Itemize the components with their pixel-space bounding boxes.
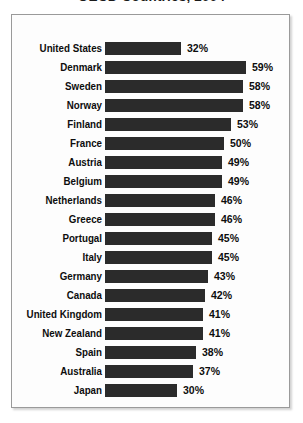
bar-value-label: 30% — [183, 381, 204, 400]
bar-row: France50% — [12, 134, 291, 153]
bar-value-label: 37% — [199, 362, 220, 381]
bar — [105, 118, 231, 131]
bar-row: Japan30% — [12, 381, 291, 400]
category-label: Portugal — [18, 229, 102, 248]
bar — [105, 194, 215, 207]
bar-row: Finland53% — [12, 115, 291, 134]
bar — [105, 137, 224, 150]
category-label: Greece — [18, 210, 102, 229]
bar — [105, 175, 222, 188]
category-label: Italy — [18, 248, 102, 267]
bar-row: Portugal45% — [12, 229, 291, 248]
bar-value-label: 46% — [221, 210, 242, 229]
bar-value-label: 53% — [237, 115, 258, 134]
bar — [105, 270, 208, 283]
category-label: Austria — [18, 153, 102, 172]
bar-value-label: 58% — [249, 77, 270, 96]
bar — [105, 80, 243, 93]
bar — [105, 365, 193, 378]
bar-row: Italy45% — [12, 248, 291, 267]
bar-value-label: 32% — [187, 39, 208, 58]
bar-row: United States32% — [12, 39, 291, 58]
bar — [105, 289, 205, 302]
bar-row: Netherlands46% — [12, 191, 291, 210]
category-label: New Zealand — [18, 324, 102, 343]
bar-row: Greece46% — [12, 210, 291, 229]
bar — [105, 42, 181, 55]
category-label: Norway — [18, 96, 102, 115]
bar — [105, 308, 203, 321]
category-label: Netherlands — [18, 191, 102, 210]
category-label: United States — [18, 39, 102, 58]
bar-value-label: 46% — [221, 191, 242, 210]
bar-value-label: 45% — [218, 248, 239, 267]
bar-row: Denmark59% — [12, 58, 291, 77]
bar-value-label: 38% — [202, 343, 223, 362]
bar — [105, 251, 212, 264]
bar — [105, 327, 203, 340]
category-label: Finland — [18, 115, 102, 134]
bar-value-label: 41% — [209, 324, 230, 343]
bar — [105, 156, 222, 169]
bar-value-label: 58% — [249, 96, 270, 115]
bar-row: Norway58% — [12, 96, 291, 115]
category-label: Denmark — [18, 58, 102, 77]
chart-frame: United States32%Denmark59%Sweden58%Norwa… — [11, 14, 290, 408]
bar-value-label: 50% — [230, 134, 251, 153]
bar — [105, 61, 246, 74]
plot-area: United States32%Denmark59%Sweden58%Norwa… — [12, 15, 291, 409]
chart-title: OECD Countries, 2004 — [0, 0, 303, 4]
bar-row: Sweden58% — [12, 77, 291, 96]
category-label: Belgium — [18, 172, 102, 191]
bar-value-label: 45% — [218, 229, 239, 248]
bar — [105, 99, 243, 112]
bar-row: New Zealand41% — [12, 324, 291, 343]
bar — [105, 232, 212, 245]
bar-row: United Kingdom41% — [12, 305, 291, 324]
bar — [105, 384, 177, 397]
bar-row: Austria49% — [12, 153, 291, 172]
category-label: Japan — [18, 381, 102, 400]
bar-row: Spain38% — [12, 343, 291, 362]
bar-row: Belgium49% — [12, 172, 291, 191]
category-label: Australia — [18, 362, 102, 381]
bar — [105, 213, 215, 226]
bar-row: Canada42% — [12, 286, 291, 305]
category-label: United Kingdom — [18, 305, 102, 324]
category-label: France — [18, 134, 102, 153]
category-label: Spain — [18, 343, 102, 362]
bar-value-label: 43% — [214, 267, 235, 286]
bar-value-label: 41% — [209, 305, 230, 324]
bar-value-label: 59% — [252, 58, 273, 77]
bar-value-label: 49% — [228, 172, 249, 191]
category-label: Sweden — [18, 77, 102, 96]
category-label: Germany — [18, 267, 102, 286]
bar-row: Germany43% — [12, 267, 291, 286]
category-label: Canada — [18, 286, 102, 305]
bar-value-label: 42% — [211, 286, 232, 305]
bar-row: Australia37% — [12, 362, 291, 381]
bar — [105, 346, 196, 359]
bar-value-label: 49% — [228, 153, 249, 172]
